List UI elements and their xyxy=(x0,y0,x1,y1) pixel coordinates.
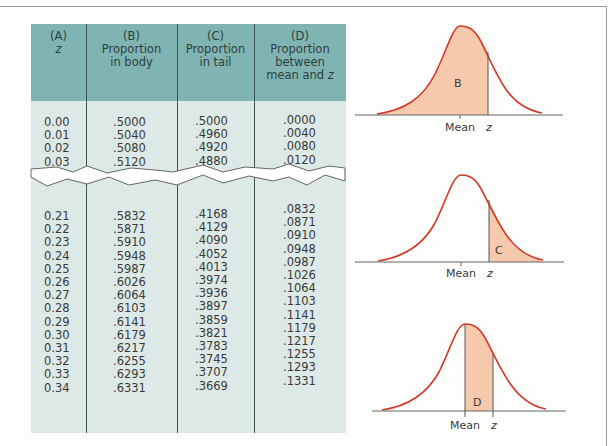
header-text: in tail xyxy=(177,56,254,69)
column-divider xyxy=(86,24,87,433)
cell-z: 0.33 xyxy=(44,368,70,381)
cell-body: .6293 xyxy=(113,368,146,381)
frame-right-border xyxy=(606,6,607,446)
frame-top-border xyxy=(0,6,606,7)
col-between-top: .0000 .0040 .0080 .0120 xyxy=(283,114,316,167)
cell-body: .5080 xyxy=(113,142,146,155)
cell-tail: .4052 xyxy=(195,248,228,261)
header-col-a: (A) z xyxy=(31,30,86,56)
z-label: z xyxy=(486,267,493,280)
column-divider xyxy=(254,24,255,433)
region-label-b: B xyxy=(454,77,462,90)
unit-normal-table: (A) z (B) Proportion in body (C) Proport… xyxy=(31,24,346,433)
col-tail-bottom: .4168 .4129 .4090 .4052 .4013 .3974 .393… xyxy=(195,208,228,393)
cell-between: .0910 xyxy=(283,229,316,242)
header-col-b: (B) Proportion in body xyxy=(86,30,177,69)
cell-body: .5948 xyxy=(113,250,146,263)
cell-tail: .3859 xyxy=(195,314,228,327)
mean-label: Mean xyxy=(446,267,476,280)
mean-label: Mean xyxy=(450,419,480,432)
normal-curve xyxy=(382,324,546,410)
header-text: mean and z xyxy=(254,69,346,82)
mean-label: Mean xyxy=(445,121,475,134)
cell-between: .1141 xyxy=(283,309,316,322)
header-text: z xyxy=(31,43,86,56)
col-body-top: .5000 .5040 .5080 .5120 xyxy=(113,116,146,169)
column-divider xyxy=(177,24,178,433)
cell-tail: .3897 xyxy=(195,300,228,313)
z-label: z xyxy=(485,121,492,134)
cell-z: 0.02 xyxy=(44,142,70,155)
normal-curve xyxy=(378,175,543,261)
cell-body: .5910 xyxy=(113,236,146,249)
header-text-mean-and-z: mean and xyxy=(266,68,328,82)
normal-curve-between-diagram: D Mean z xyxy=(355,316,571,434)
cell-body: .6141 xyxy=(113,316,146,329)
cell-between: .1103 xyxy=(283,295,316,308)
cell-tail: .4920 xyxy=(195,141,228,154)
col-z-top: 0.00 0.01 0.02 0.03 xyxy=(44,116,70,169)
col-tail-top: .5000 .4960 .4920 .4880 xyxy=(195,115,228,168)
normal-curve-body-diagram: B Mean z xyxy=(355,18,571,143)
col-body-bottom: .5832 .5871 .5910 .5948 .5987 .6026 .606… xyxy=(113,210,146,395)
header-col-d: (D) Proportion between mean and z xyxy=(254,30,346,82)
cell-z: 0.34 xyxy=(44,382,70,395)
shaded-body-area xyxy=(377,26,488,115)
cell-body: .6103 xyxy=(113,302,146,315)
cell-between: .1331 xyxy=(283,375,316,388)
cell-z: 0.24 xyxy=(44,250,70,263)
col-z-bottom: 0.21 0.22 0.23 0.24 0.25 0.26 0.27 0.28 … xyxy=(44,210,70,395)
normal-curve-tail-diagram: C Mean z xyxy=(355,167,571,282)
cell-tail: .3669 xyxy=(195,380,228,393)
cell-between: .0080 xyxy=(283,140,316,153)
cell-between: .0948 xyxy=(283,243,316,256)
region-label-d: D xyxy=(473,396,481,409)
header-z-italic: z xyxy=(328,68,334,82)
cell-between: .1293 xyxy=(283,361,316,374)
cell-z: 0.28 xyxy=(44,302,70,315)
cell-z: 0.23 xyxy=(44,236,70,249)
cell-z: 0.29 xyxy=(44,316,70,329)
header-col-c: (C) Proportion in tail xyxy=(177,30,254,69)
header-text: in body xyxy=(86,56,177,69)
cell-tail: .3707 xyxy=(195,366,228,379)
table-break-icon xyxy=(27,163,347,193)
region-label-c: C xyxy=(495,244,503,257)
cell-body: .6331 xyxy=(113,382,146,395)
col-between-bottom: .0832 .0871 .0910 .0948 .0987 .1026 .106… xyxy=(283,203,316,388)
z-label: z xyxy=(490,419,497,432)
cell-tail: .4090 xyxy=(195,234,228,247)
